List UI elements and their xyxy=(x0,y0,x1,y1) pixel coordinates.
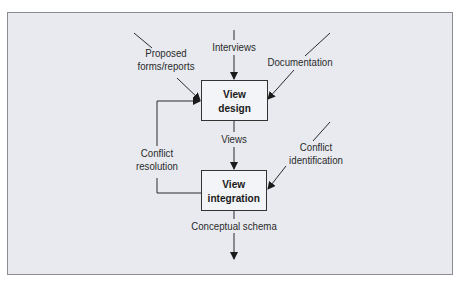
label-conflict-resolution-line2: resolution xyxy=(128,160,186,173)
view-integration-line1: View xyxy=(208,177,260,191)
view-integration-line2: integration xyxy=(208,191,260,205)
label-proposed-line1: Proposed xyxy=(131,47,201,60)
label-proposed-forms: Proposed forms/reports xyxy=(131,47,201,73)
label-documentation: Documentation xyxy=(265,56,335,69)
label-views: Views xyxy=(216,133,251,146)
label-conflict-identification-line1: Conflict xyxy=(283,141,350,154)
label-proposed-line2: forms/reports xyxy=(131,60,201,73)
label-interviews: Interviews xyxy=(208,41,261,54)
view-design-box: Viewdesign xyxy=(201,80,268,121)
label-conflict-identification-line2: identification xyxy=(283,154,350,167)
label-conflict-resolution: Conflict resolution xyxy=(128,147,186,173)
label-conflict-identification: Conflict identification xyxy=(283,141,350,167)
label-conflict-resolution-line1: Conflict xyxy=(128,147,186,160)
view-design-line1: View xyxy=(218,87,251,101)
view-design-line2: design xyxy=(218,101,251,115)
label-conceptual-schema: Conceptual schema xyxy=(190,220,278,233)
view-integration-box: Viewintegration xyxy=(201,170,267,211)
